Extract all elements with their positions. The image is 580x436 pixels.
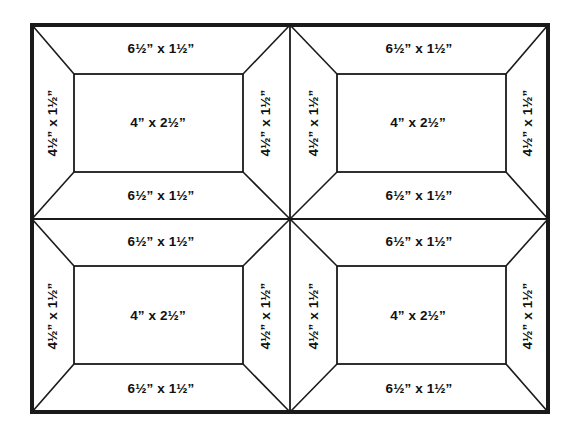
block-bottom-right-bottom-strip-label: 6½” x 1½” [386, 382, 453, 396]
block-top-right-top-strip-label: 6½” x 1½” [386, 42, 453, 56]
quilt-block-diagram-svg [0, 0, 580, 436]
block-top-left-right-strip-label: 4½” x 1½” [259, 90, 273, 157]
block-bottom-left-left-strip-label: 4½” x 1½” [46, 283, 60, 350]
block-bottom-left-center-label: 4” x 2½” [130, 309, 186, 323]
block-bottom-left-right-strip-label: 4½” x 1½” [259, 283, 273, 350]
block-bottom-right-top-strip-label: 6½” x 1½” [386, 235, 453, 249]
block-bottom-right-left-strip-label: 4½” x 1½” [307, 283, 321, 350]
block-top-right-left-strip-label: 4½” x 1½” [307, 90, 321, 157]
block-top-right-center-label: 4” x 2½” [390, 116, 446, 130]
block-top-right-bottom-strip-label: 6½” x 1½” [386, 189, 453, 203]
block-bottom-right-center-label: 4” x 2½” [390, 309, 446, 323]
block-top-right-right-strip-label: 4½” x 1½” [521, 90, 535, 157]
block-top-left-bottom-strip-label: 6½” x 1½” [128, 189, 195, 203]
block-top-left-center-label: 4” x 2½” [130, 116, 186, 130]
diagram-canvas: 6½” x 1½” 6½” x 1½” 4½” x 1½” 4½” x 1½” … [0, 0, 580, 436]
block-bottom-left-top-strip-label: 6½” x 1½” [128, 235, 195, 249]
block-top-left-left-strip-label: 4½” x 1½” [46, 90, 60, 157]
block-bottom-right-right-strip-label: 4½” x 1½” [521, 283, 535, 350]
block-bottom-left-bottom-strip-label: 6½” x 1½” [128, 382, 195, 396]
block-top-left-top-strip-label: 6½” x 1½” [128, 42, 195, 56]
